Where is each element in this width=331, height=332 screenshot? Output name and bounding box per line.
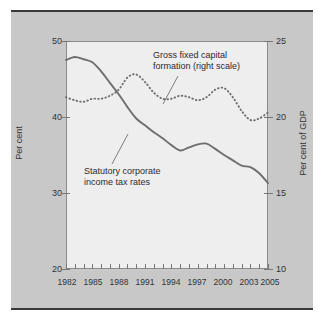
data-series-layer xyxy=(66,57,268,183)
leader-line-gfcf xyxy=(163,76,178,104)
leader-line-tax xyxy=(112,134,128,164)
series-line-statutory-corporate-income-tax-rates xyxy=(66,57,268,183)
axis-tick-marks xyxy=(61,42,273,270)
figure-container: 50 40 30 20 25 20 15 10 Per cent Per cen… xyxy=(0,0,331,332)
annotation-leader-lines xyxy=(112,76,178,164)
chart-vector-overlay xyxy=(0,0,331,332)
